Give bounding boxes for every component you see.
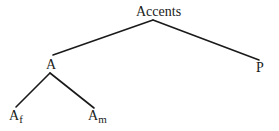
node-accents-label: Accents [136, 4, 181, 19]
node-p: P [256, 61, 264, 75]
edge-accents-to-p [153, 20, 259, 60]
node-am-subscript: m [98, 113, 107, 125]
node-a: A [46, 58, 56, 72]
node-a-label: A [46, 57, 56, 72]
edge-a-to-af [16, 73, 50, 107]
node-af: Af [9, 109, 23, 125]
edge-accents-to-a [53, 20, 153, 55]
node-am-label: A [88, 108, 98, 123]
node-p-label: P [256, 60, 264, 75]
node-accents: Accents [136, 5, 181, 19]
edge-a-to-am [50, 73, 94, 108]
node-af-label: A [9, 108, 19, 123]
node-af-subscript: f [19, 113, 23, 125]
tree-edges [0, 0, 279, 131]
node-am: Am [88, 109, 107, 125]
